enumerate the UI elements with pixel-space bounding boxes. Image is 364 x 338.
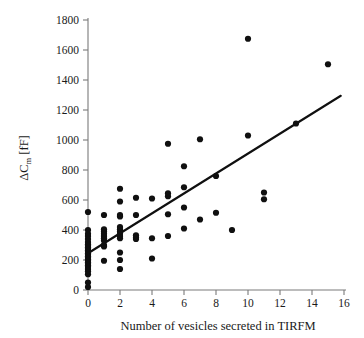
- data-point: [245, 132, 251, 138]
- data-point: [133, 212, 139, 218]
- data-point: [117, 212, 123, 218]
- data-point: [181, 204, 187, 210]
- data-point: [197, 136, 203, 142]
- x-axis-tick-label: 0: [85, 297, 91, 309]
- data-point: [149, 255, 155, 261]
- data-point: [181, 225, 187, 231]
- data-point: [261, 189, 267, 195]
- x-axis-tick-label: 6: [181, 297, 187, 309]
- data-point: [165, 141, 171, 147]
- x-axis-tick-label: 14: [306, 297, 318, 309]
- y-axis-tick-label: 1400: [56, 74, 79, 86]
- x-axis-tick-label: 8: [213, 297, 219, 309]
- data-point: [165, 211, 171, 217]
- y-axis-tick-label: 1000: [56, 134, 79, 146]
- data-point: [85, 227, 91, 233]
- svg-text:ΔCm [fF]: ΔCm [fF]: [17, 135, 33, 181]
- data-point: [133, 232, 139, 238]
- scatter-chart-figure: 020040060080010001200140016001800 024681…: [0, 0, 364, 338]
- data-point: [117, 266, 123, 272]
- data-point: [149, 195, 155, 201]
- data-point: [245, 36, 251, 42]
- y-axis-tick-label: 1600: [56, 44, 79, 56]
- y-axis-tick-label: 800: [62, 164, 80, 176]
- y-axis-tick-label: 600: [62, 194, 80, 206]
- data-point: [197, 216, 203, 222]
- x-axis-tick-label: 4: [149, 297, 155, 309]
- data-point: [133, 195, 139, 201]
- x-axis-tick-label: 12: [274, 297, 286, 309]
- data-point: [101, 258, 107, 264]
- x-axis-tick-label: 2: [117, 297, 123, 309]
- data-point: [101, 212, 107, 218]
- data-point: [181, 163, 187, 169]
- y-axis-title-unit: [fF]: [17, 135, 31, 158]
- chart-background: [0, 0, 364, 338]
- y-axis-title-c: C: [17, 164, 31, 172]
- data-point: [229, 227, 235, 233]
- data-point: [149, 235, 155, 241]
- data-point: [165, 233, 171, 239]
- scatter-plot-svg: 020040060080010001200140016001800 024681…: [0, 0, 364, 338]
- y-axis-title: ΔCm [fF]: [17, 135, 33, 181]
- y-axis-title-delta: Δ: [17, 173, 31, 181]
- y-axis-tick-label: 400: [62, 224, 80, 236]
- data-point: [261, 196, 267, 202]
- data-point: [85, 209, 91, 215]
- data-point: [101, 226, 107, 232]
- data-point: [117, 249, 123, 255]
- data-point: [325, 61, 331, 67]
- data-point: [117, 224, 123, 230]
- data-point: [117, 198, 123, 204]
- y-axis-tick-label: 0: [73, 284, 79, 296]
- data-point: [117, 186, 123, 192]
- y-axis-tick-label: 200: [62, 254, 80, 266]
- x-axis-tick-label: 10: [242, 297, 254, 309]
- data-point: [165, 190, 171, 196]
- data-point: [213, 210, 219, 216]
- x-axis-title: Number of vesicles secreted in TIRFM: [120, 319, 315, 333]
- y-axis-tick-label: 1800: [56, 14, 79, 26]
- data-point: [181, 184, 187, 190]
- data-point: [85, 279, 91, 285]
- y-axis-tick-label: 1200: [56, 104, 79, 116]
- x-axis-tick-label: 16: [338, 297, 350, 309]
- data-point: [117, 257, 123, 263]
